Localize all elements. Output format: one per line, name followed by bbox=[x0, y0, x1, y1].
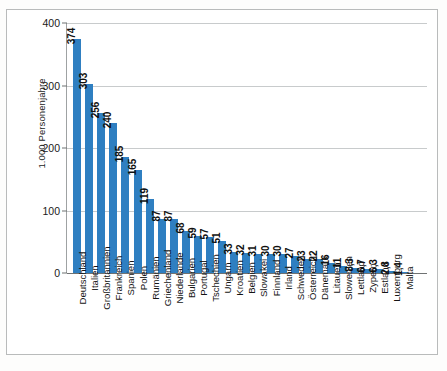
bar-slot: 303 bbox=[83, 23, 95, 273]
bar-value-label: 27 bbox=[284, 248, 295, 259]
bar-slot: 30 bbox=[265, 23, 277, 273]
bar-slot: 87 bbox=[168, 23, 180, 273]
bar-slot: 16 bbox=[325, 23, 337, 273]
x-label-slot: Großbritannien bbox=[95, 276, 107, 362]
x-label-slot: Rumänien bbox=[144, 276, 156, 362]
bar-slot: 6,3 bbox=[373, 23, 385, 273]
x-label-slot: Bulgarien bbox=[180, 276, 192, 362]
x-label-slot: Schweden bbox=[289, 276, 301, 362]
bar-slot: 33 bbox=[228, 23, 240, 273]
x-label-slot: Portugal bbox=[192, 276, 204, 362]
bar-value-label: 185 bbox=[114, 146, 125, 162]
bar-value-label: 33 bbox=[223, 244, 234, 255]
bar-value-label: 240 bbox=[102, 112, 113, 128]
bar-slot: 119 bbox=[144, 23, 156, 273]
y-axis-title: 1.000 Personenjahre bbox=[36, 44, 47, 204]
bar-value-label: 374 bbox=[66, 28, 77, 44]
y-tick-label: 100 bbox=[42, 205, 60, 217]
x-label-slot: Irland bbox=[277, 276, 289, 362]
x-label-slot: Slowenien bbox=[337, 276, 349, 362]
chart-frame: 1.000 Personenjahre 0100200300400 374303… bbox=[6, 9, 438, 355]
bar-value-label: 87 bbox=[163, 210, 174, 221]
x-label-slot: Deutschland bbox=[71, 276, 83, 362]
bar-slot: 30 bbox=[277, 23, 289, 273]
x-label-slot: Slowakei bbox=[252, 276, 264, 362]
bar-slot: 374 bbox=[71, 23, 83, 273]
y-tick-label: 400 bbox=[42, 17, 60, 29]
bar-slot: 2,8 bbox=[385, 23, 397, 273]
x-label-slot: Finnland bbox=[265, 276, 277, 362]
bar-slot: 23 bbox=[301, 23, 313, 273]
bar-value-label: 30 bbox=[272, 246, 283, 257]
x-label-slot: Spanien bbox=[119, 276, 131, 362]
x-label-slot: Österreich bbox=[301, 276, 313, 362]
bar-value-label: 59 bbox=[187, 228, 198, 239]
bar-slot: 185 bbox=[119, 23, 131, 273]
y-tick-label: 0 bbox=[54, 267, 60, 279]
x-label-slot: Litauen bbox=[325, 276, 337, 362]
bar-value-label: 119 bbox=[139, 188, 150, 204]
figure: 1.000 Personenjahre 0100200300400 374303… bbox=[0, 0, 447, 371]
x-label-slot: Frankreich bbox=[107, 276, 119, 362]
bar-slot: 31 bbox=[252, 23, 264, 273]
bar-value-label: 68 bbox=[175, 222, 186, 233]
x-label-slot: Luxemburg bbox=[385, 276, 397, 362]
y-tick-label: 200 bbox=[42, 142, 60, 154]
bar-slot: 27 bbox=[289, 23, 301, 273]
bar-slot: 51 bbox=[216, 23, 228, 273]
bar-slot: 165 bbox=[131, 23, 143, 273]
x-label-slot: Belgien bbox=[240, 276, 252, 362]
bar-value-label: 32 bbox=[235, 245, 246, 256]
x-label-slot: Tschechien bbox=[204, 276, 216, 362]
bar-value-label: 51 bbox=[211, 233, 222, 244]
bar-slot: 87 bbox=[156, 23, 168, 273]
x-label-slot: Griechenland bbox=[156, 276, 168, 362]
bar-slot: 11 bbox=[337, 23, 349, 273]
bar-slot: 8,3 bbox=[349, 23, 361, 273]
x-label-slot: Estland bbox=[373, 276, 385, 362]
bar-value-label: 31 bbox=[247, 245, 258, 256]
x-label-slot: Niederlande bbox=[168, 276, 180, 362]
x-label-slot: Malta bbox=[398, 276, 410, 362]
bar-value-label: 87 bbox=[151, 210, 162, 221]
x-label-slot: Polen bbox=[131, 276, 143, 362]
plot-area: 0100200300400 37430325624018516511987876… bbox=[67, 23, 427, 273]
bar-series: 3743032562401851651198787685957513332313… bbox=[67, 23, 427, 273]
bar-slot: 256 bbox=[95, 23, 107, 273]
x-label-slot: Lettland bbox=[349, 276, 361, 362]
bar-value-label: 303 bbox=[78, 72, 89, 88]
x-axis-tick-label: Malta bbox=[404, 266, 415, 289]
bar-value-label: 256 bbox=[90, 102, 101, 118]
x-label-slot: Kroatien bbox=[228, 276, 240, 362]
bar-value-label: 165 bbox=[127, 159, 138, 175]
bar[interactable]: 165 bbox=[134, 170, 142, 273]
x-axis-category-labels: DeutschlandItalienGroßbritannienFrankrei… bbox=[67, 276, 427, 362]
x-label-slot: Italien bbox=[83, 276, 95, 362]
bar-slot: 1,4 bbox=[398, 23, 410, 273]
x-label-slot: Zypern bbox=[361, 276, 373, 362]
x-label-slot: Ungarn bbox=[216, 276, 228, 362]
bar-value-label: 57 bbox=[199, 229, 210, 240]
bar-slot: 22 bbox=[313, 23, 325, 273]
y-tick-label: 300 bbox=[42, 80, 60, 92]
bar-slot: 6,7 bbox=[361, 23, 373, 273]
bar-slot: 32 bbox=[240, 23, 252, 273]
bar-value-label: 30 bbox=[260, 246, 271, 257]
x-label-slot: Dänemark bbox=[313, 276, 325, 362]
